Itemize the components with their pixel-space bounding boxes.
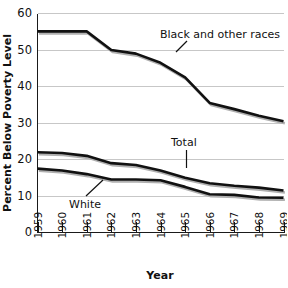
annotation-total: Total xyxy=(170,136,197,149)
x-tick-label-1965: 1965 xyxy=(179,212,191,239)
x-tick-label-1959: 1959 xyxy=(32,212,44,239)
x-tick-label-1969: 1969 xyxy=(278,212,288,239)
x-tick-label-1963: 1963 xyxy=(130,212,142,239)
y-tick-label-60: 60 xyxy=(17,6,32,20)
chart-canvas: 0102030405060 19591960196119621963196419… xyxy=(0,0,287,288)
x-tick-label-1961: 1961 xyxy=(81,212,93,239)
x-tick-label-1966: 1966 xyxy=(204,211,216,238)
x-axis-tick-labels: 1959196019611962196319641965196619671968… xyxy=(32,211,288,238)
series-shadow-black-and-other-races xyxy=(39,33,285,123)
leader-line-white xyxy=(86,180,103,196)
y-tick-label-40: 40 xyxy=(17,79,32,93)
y-axis-title: Percent Below Poverty Level xyxy=(1,34,14,212)
y-tick-label-20: 20 xyxy=(17,152,32,166)
y-axis-tick-labels: 0102030405060 xyxy=(17,6,32,239)
series-black-and-other-races xyxy=(38,31,285,123)
poverty-level-line-chart: 0102030405060 19591960196119621963196419… xyxy=(0,0,287,288)
x-tick-label-1967: 1967 xyxy=(228,212,240,239)
x-tick-label-1960: 1960 xyxy=(56,212,68,239)
x-tick-label-1968: 1968 xyxy=(253,212,265,239)
x-tick-label-1964: 1964 xyxy=(155,211,167,238)
annotation-white: White xyxy=(69,198,101,211)
y-tick-label-10: 10 xyxy=(17,189,32,203)
y-tick-label-30: 30 xyxy=(17,116,32,130)
x-axis-title: Year xyxy=(145,269,174,282)
series-group xyxy=(38,31,285,199)
y-tick-label-50: 50 xyxy=(17,43,32,57)
x-tick-label-1962: 1962 xyxy=(105,212,117,239)
annotation-black-and-other-races: Black and other races xyxy=(160,28,280,41)
series-line-black-and-other-races xyxy=(38,31,284,121)
